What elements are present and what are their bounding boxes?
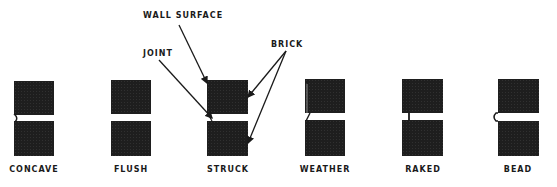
leader-lines-and-profiles (0, 0, 557, 187)
wall-surface-arrow-icon (179, 25, 207, 83)
bead-profile-icon (494, 113, 498, 121)
concave-profile-icon (14, 114, 17, 122)
mortar-joint-diagram: WALL SURFACE JOINT BRICK CONCAVE FLUSH S… (0, 0, 557, 187)
weather-profile-icon (306, 113, 310, 121)
joint-arrow-icon (159, 60, 212, 118)
brick-arrow-top-icon (248, 51, 286, 97)
brick-arrow-bottom-icon (248, 51, 286, 143)
